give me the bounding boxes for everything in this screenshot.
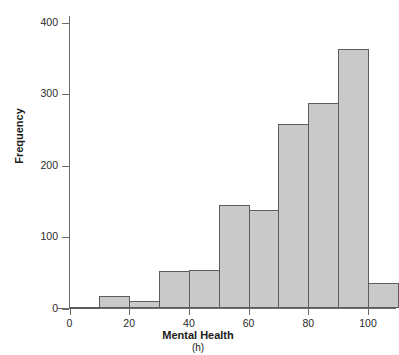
y-tick: [62, 23, 69, 24]
y-tick-label: 300: [18, 87, 58, 99]
x-tick-label: 20: [109, 317, 149, 329]
histogram-bar: [219, 205, 250, 309]
histogram-bar: [129, 301, 160, 308]
x-tick-label: 60: [229, 317, 269, 329]
x-tick-label: 80: [288, 317, 328, 329]
x-axis-units: (h): [0, 342, 396, 353]
histogram-bar: [189, 270, 220, 309]
x-tick: [70, 309, 71, 315]
x-tick-label: 0: [50, 317, 90, 329]
y-tick: [62, 166, 69, 167]
y-axis-line: [69, 16, 70, 309]
histogram-bar: [278, 124, 309, 308]
x-tick-label: 100: [348, 317, 388, 329]
histogram-bar: [70, 307, 101, 309]
histogram-bar: [99, 296, 130, 308]
y-tick-label: 200: [18, 159, 58, 171]
y-tick: [62, 94, 69, 95]
x-tick: [189, 309, 190, 315]
histogram-bar: [368, 283, 399, 308]
x-tick: [368, 309, 369, 315]
histogram-bar: [338, 49, 369, 308]
y-tick-label: 400: [18, 16, 58, 28]
y-tick-label: 0: [18, 302, 58, 314]
x-tick: [308, 309, 309, 315]
y-tick: [62, 309, 69, 310]
x-tick-label: 40: [169, 317, 209, 329]
histogram-bar: [249, 210, 280, 309]
y-tick-label: 100: [18, 230, 58, 242]
histogram-bar: [308, 103, 339, 309]
x-tick: [129, 309, 130, 315]
y-tick: [62, 237, 69, 238]
x-axis-title: Mental Health: [0, 329, 396, 341]
histogram-bar: [159, 271, 190, 309]
x-tick: [249, 309, 250, 315]
